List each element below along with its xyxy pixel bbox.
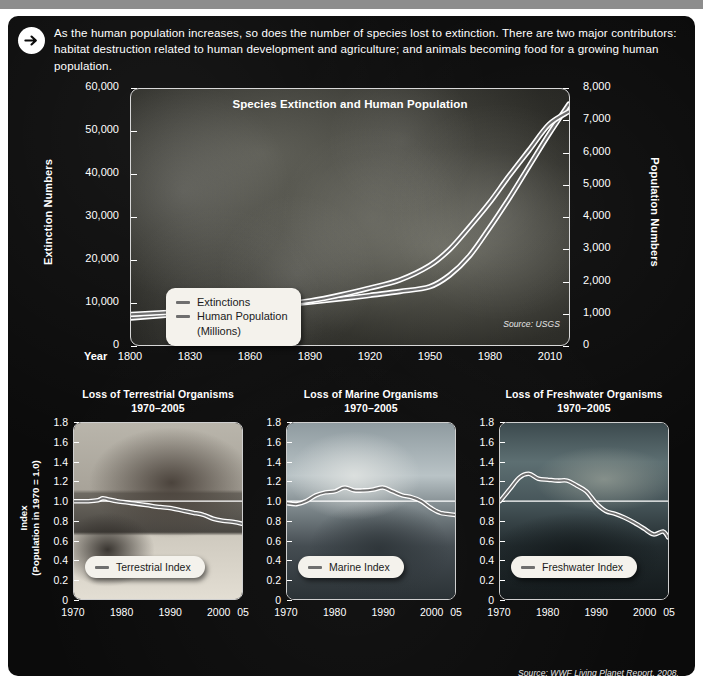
panel-marine: Loss of Marine Organisms 1970–200500.20.… <box>231 388 469 668</box>
bottom-source-note: Source: WWF Living Planet Report, 2008. <box>518 668 679 676</box>
panel-y-tickmark <box>287 600 292 601</box>
panel-y-tick: 1.2 <box>466 475 494 487</box>
bottom-panels: Index(Population in 1970 = 1.0)Loss of T… <box>18 388 682 668</box>
y-left-tickmark <box>131 346 137 347</box>
main-y-left-tick: 10,000 <box>85 295 119 307</box>
main-chart-title: Species Extinction and Human Population <box>131 98 569 110</box>
line-swatch-icon <box>308 566 322 569</box>
main-y-right-tick: 4,000 <box>583 209 611 221</box>
panel-legend-label-marine: Marine Index <box>329 561 390 573</box>
panel-y-tickmark <box>500 600 505 601</box>
poster-panel: As the human population increases, so do… <box>8 16 695 676</box>
panel-legend-marine: Marine Index <box>298 556 404 578</box>
panel-x-tick: 2000 <box>207 606 230 618</box>
legend-label-extinctions: Extinctions <box>197 295 250 309</box>
panel-x-tick: 2000 <box>633 606 656 618</box>
panel-legend-label-freshwater: Freshwater Index <box>542 561 623 573</box>
line-swatch-icon <box>176 315 190 318</box>
legend-item-human-population: Human Population (Millions) <box>176 309 288 338</box>
panel-y-tick: 0.8 <box>466 515 494 527</box>
main-x-tick: 1950 <box>418 350 442 362</box>
panel-y-tick: 1.6 <box>466 436 494 448</box>
main-y-left-tick: 40,000 <box>85 166 119 178</box>
panel-legend-freshwater: Freshwater Index <box>511 556 637 578</box>
intro-block: As the human population increases, so do… <box>18 24 682 90</box>
main-chart-y-left-label: Extinction Numbers <box>42 137 54 287</box>
panel-legend-terrestrial: Terrestrial Index <box>85 556 205 578</box>
panel-y-tick: 1.2 <box>40 475 68 487</box>
panel-x-tick: 05 <box>663 606 675 618</box>
main-y-right-tick: 2,000 <box>583 274 611 286</box>
panel-y-tick: 0.6 <box>253 535 281 547</box>
main-chart-y-right-label: Population Numbers <box>649 137 661 287</box>
panel-y-tick: 0.4 <box>40 554 68 566</box>
intro-text: As the human population increases, so do… <box>54 24 682 74</box>
panel-y-tick: 1.4 <box>40 456 68 468</box>
panel-y-tick: 1.8 <box>40 416 68 428</box>
panel-y-tick: 1.4 <box>253 456 281 468</box>
line-swatch-icon <box>521 566 535 569</box>
panel-y-tick: 1.0 <box>40 495 68 507</box>
panel-x-tick: 1980 <box>536 606 559 618</box>
panel-y-tick: 0.8 <box>253 515 281 527</box>
legend-label-human-population: Human Population (Millions) <box>197 309 288 338</box>
panel-y-tick: 0.6 <box>466 535 494 547</box>
top-white-gap <box>0 9 703 16</box>
main-y-left-tick: 30,000 <box>85 209 119 221</box>
panel-x-tick: 1980 <box>110 606 133 618</box>
panel-y-tick: 0.2 <box>253 574 281 586</box>
line-swatch-icon <box>176 301 190 304</box>
legend-item-extinctions: Extinctions <box>176 295 288 309</box>
main-y-right-tick: 6,000 <box>583 145 611 157</box>
main-chart-source: Source: USGS <box>503 319 560 329</box>
main-chart-x-labels: Year 18001830186018901920195019802010 <box>18 350 682 372</box>
panel-y-tick: 0.2 <box>466 574 494 586</box>
panel-y-tick: 0.6 <box>40 535 68 547</box>
panel-y-tick: 1.8 <box>253 416 281 428</box>
panel-y-tick: 1.0 <box>466 495 494 507</box>
panel-y-tick: 0.4 <box>466 554 494 566</box>
panel-x-tick: 1980 <box>323 606 346 618</box>
panel-y-tick: 0 <box>40 594 68 606</box>
panel-legend-label-terrestrial: Terrestrial Index <box>116 561 191 573</box>
main-y-left-tick: 0 <box>113 338 119 350</box>
panel-y-tick: 0 <box>253 594 281 606</box>
main-x-tick: 1890 <box>298 350 322 362</box>
main-x-tick: 1860 <box>238 350 262 362</box>
main-chart: Extinction Numbers Population Numbers Sp… <box>18 88 682 378</box>
main-y-right-tick: 7,000 <box>583 112 611 124</box>
panel-x-tick: 1990 <box>371 606 394 618</box>
y-right-tickmark <box>563 346 569 347</box>
main-x-tick: 1830 <box>178 350 202 362</box>
panel-y-tickmark <box>74 600 79 601</box>
panel-y-tick: 1.8 <box>466 416 494 428</box>
main-x-tick: 1980 <box>478 350 502 362</box>
main-y-right-tick: 3,000 <box>583 241 611 253</box>
line-swatch-icon <box>95 566 109 569</box>
main-y-right-tick: 5,000 <box>583 177 611 189</box>
panel-y-tick: 1.6 <box>40 436 68 448</box>
panel-y-tick: 1.2 <box>253 475 281 487</box>
panel-x-tick: 1990 <box>158 606 181 618</box>
main-chart-legend: Extinctions Human Population (Millions) <box>166 288 301 346</box>
panel-y-tick: 0 <box>466 594 494 606</box>
panel-x-tick: 1970 <box>487 606 510 618</box>
main-x-tick: 1920 <box>358 350 382 362</box>
panel-x-tick: 1990 <box>584 606 607 618</box>
panel-x-tick: 1970 <box>274 606 297 618</box>
panel-x-tick: 1970 <box>61 606 84 618</box>
infographic-page: As the human population increases, so do… <box>0 0 703 684</box>
panel-terrestrial: Index(Population in 1970 = 1.0)Loss of T… <box>18 388 256 668</box>
panel-y-tick: 1.6 <box>253 436 281 448</box>
top-grey-bar <box>0 0 703 9</box>
panel-y-tick: 1.0 <box>253 495 281 507</box>
main-y-right-tick: 1,000 <box>583 306 611 318</box>
panel-y-tick: 0.2 <box>40 574 68 586</box>
panel-y-tick: 0.8 <box>40 515 68 527</box>
x-axis-year-word: Year <box>84 350 107 362</box>
main-y-right-tick: 0 <box>583 338 589 350</box>
main-y-left-tick: 20,000 <box>85 252 119 264</box>
panel-freshwater: Loss of Freshwater Organisms 1970–200500… <box>444 388 682 668</box>
arrow-right-circle-icon <box>18 27 45 54</box>
panel-y-tick: 1.4 <box>466 456 494 468</box>
